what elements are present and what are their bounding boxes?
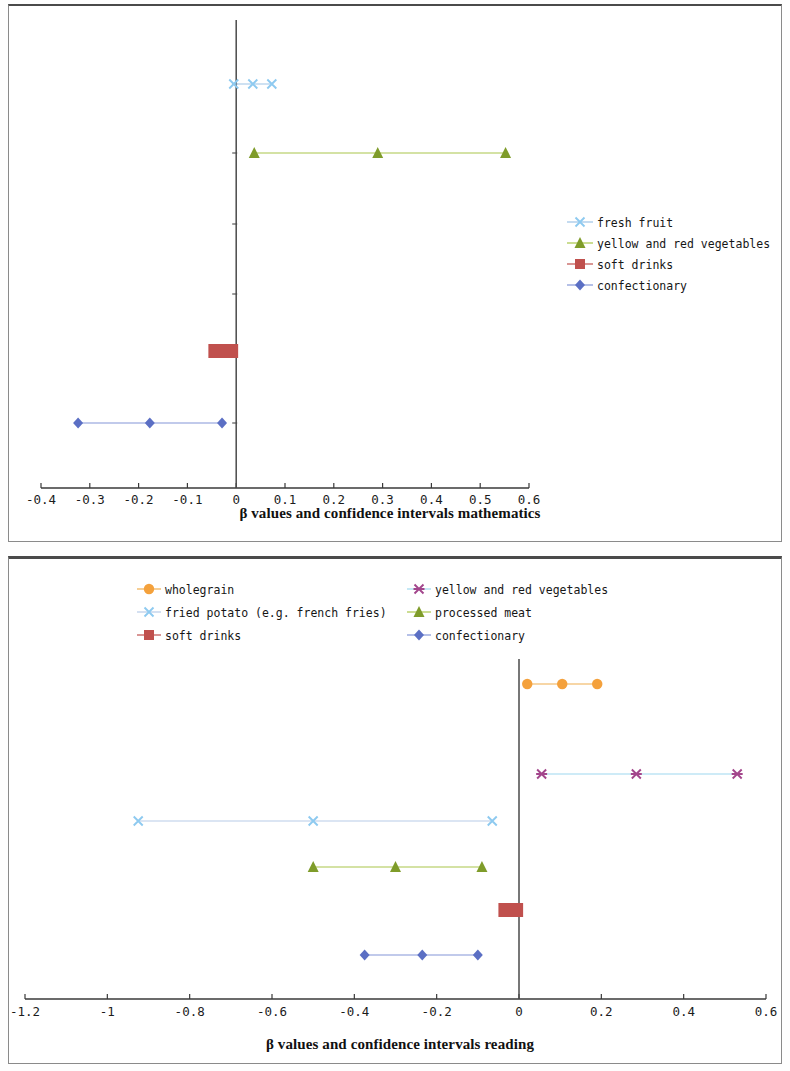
diamond-icon [414, 630, 424, 641]
legend-item-label: wholegrain [165, 583, 234, 597]
reading-chart-panel: -1.2-1-0.8-0.6-0.4-0.200.20.40.6wholegra… [8, 556, 782, 1064]
circle-icon [592, 679, 602, 689]
x-axis-tick-label: 0.4 [672, 1004, 695, 1019]
mathematics-axis-title: β values and confidence intervals mathem… [120, 505, 660, 522]
legend-item-label: yellow and red vegetables [435, 583, 608, 597]
legend-item-label: confectionary [597, 279, 687, 293]
legend-item-label: fresh fruit [597, 216, 673, 230]
ci-point-1-marker [145, 418, 155, 429]
reading-axis-title: β values and confidence intervals readin… [60, 1036, 740, 1053]
ci-point-1-marker [557, 679, 567, 689]
ci-point-2-marker [732, 770, 743, 779]
legend-item-label: fried potato (e.g. french fries) [165, 606, 387, 620]
ci-bar [208, 344, 238, 358]
legend-square-icon [575, 259, 585, 269]
ci-point-2-marker [473, 950, 483, 961]
legend-item-label: soft drinks [165, 629, 241, 643]
x-axis-tick-label: 0.6 [755, 1004, 778, 1019]
ci-point-1-marker [631, 770, 642, 779]
x-axis-tick-label: -0.4 [26, 492, 56, 507]
x-axis-tick-label: -0.3 [75, 492, 105, 507]
x-axis-tick-label: -0.2 [422, 1004, 452, 1019]
legend-marker [414, 630, 424, 641]
reading-chart-svg: -1.2-1-0.8-0.6-0.4-0.200.20.40.6wholegra… [9, 559, 781, 1063]
x-axis-tick-label: 0.2 [590, 1004, 613, 1019]
x-axis-tick-label: 0 [515, 1004, 523, 1019]
diamond-icon [360, 950, 370, 961]
x-axis-tick-label: -0.8 [175, 1004, 205, 1019]
ci-point-0-marker [522, 679, 532, 689]
x-axis-tick-label: -1 [100, 1004, 115, 1019]
legend-item [567, 259, 593, 269]
legend-marker [414, 585, 425, 594]
diamond-icon [575, 280, 585, 291]
diamond-icon [217, 418, 227, 429]
circle-icon [144, 584, 154, 594]
legend-item-label: yellow and red vegetables [597, 237, 770, 251]
series-soft-drinks [208, 344, 238, 358]
asterisk-icon [414, 585, 425, 594]
ci-bar [498, 903, 523, 917]
diamond-icon [145, 418, 155, 429]
ci-point-0-marker [73, 418, 83, 429]
circle-icon [557, 679, 567, 689]
diamond-icon [417, 950, 427, 961]
ci-point-2-marker [217, 418, 227, 429]
diamond-icon [73, 418, 83, 429]
x-axis-tick-label: -1.2 [10, 1004, 40, 1019]
legend-item-label: soft drinks [597, 258, 673, 272]
mathematics-chart-svg: -0.4-0.3-0.2-0.100.10.20.30.40.50.6fresh… [9, 6, 781, 541]
mathematics-chart-panel: -0.4-0.3-0.2-0.100.10.20.30.40.50.6fresh… [8, 4, 782, 542]
circle-icon [522, 679, 532, 689]
legend-square-icon [144, 630, 154, 640]
legend-item-label: confectionary [435, 629, 525, 643]
legend-item-label: processed meat [435, 606, 532, 620]
ci-point-0-marker [536, 770, 547, 779]
x-axis-tick-label: -0.6 [257, 1004, 287, 1019]
asterisk-icon [732, 770, 743, 779]
ci-point-2-marker [592, 679, 602, 689]
asterisk-icon [536, 770, 547, 779]
series-soft-drinks [498, 903, 523, 917]
figure-page: -0.4-0.3-0.2-0.100.10.20.30.40.50.6fresh… [0, 0, 790, 1071]
ci-point-0-marker [360, 950, 370, 961]
x-axis-tick-label: -0.4 [339, 1004, 369, 1019]
asterisk-icon [631, 770, 642, 779]
legend-marker [575, 280, 585, 291]
ci-point-1-marker [417, 950, 427, 961]
legend-marker [144, 584, 154, 594]
diamond-icon [473, 950, 483, 961]
